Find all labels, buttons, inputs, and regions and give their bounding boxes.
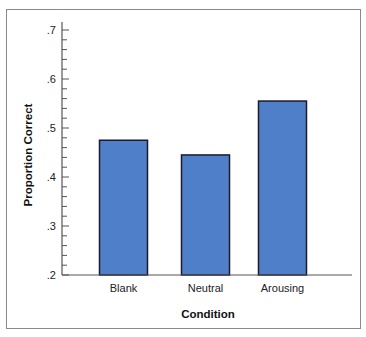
- bars-layer: [100, 101, 307, 275]
- y-axis-title: Proportion Correct: [22, 103, 34, 206]
- x-tick-label-blank: Blank: [110, 282, 138, 294]
- x-axis-title: Condition: [181, 308, 235, 320]
- bar-arousing: [259, 101, 307, 275]
- y-tick-label: .7: [47, 24, 56, 36]
- bar-neutral: [182, 155, 230, 275]
- y-tick-label: .2: [47, 269, 56, 281]
- y-tick-label: .5: [47, 122, 56, 134]
- bar-blank: [100, 140, 148, 275]
- y-tick-label: .3: [47, 220, 56, 232]
- x-tick-label-arousing: Arousing: [261, 282, 304, 294]
- x-tick-labels: BlankNeutralArousing: [110, 282, 304, 294]
- y-tick-label: .6: [47, 73, 56, 85]
- y-ticks: .2.3.4.5.6.7: [47, 24, 69, 281]
- x-tick-label-neutral: Neutral: [188, 282, 223, 294]
- bar-chart: .2.3.4.5.6.7 BlankNeutralArousing Condit…: [0, 0, 366, 337]
- y-tick-label: .4: [47, 171, 56, 183]
